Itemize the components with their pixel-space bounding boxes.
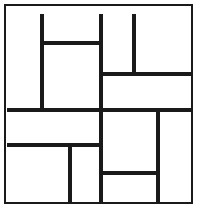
figure-canvas — [0, 0, 199, 211]
line-figure — [0, 0, 199, 211]
